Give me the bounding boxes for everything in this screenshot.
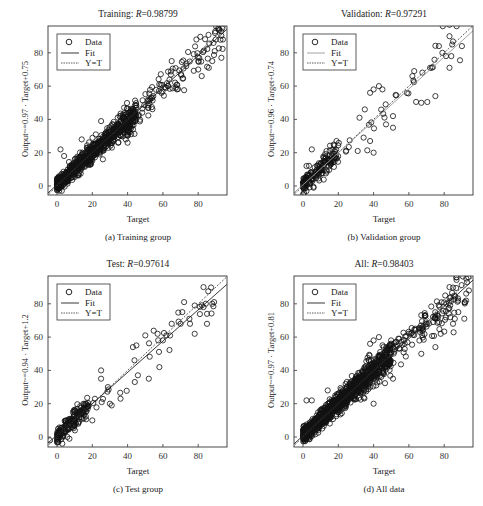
x-tick-label: 0 (55, 451, 60, 461)
legend: DataFitY=T (57, 34, 110, 70)
y-tick-label: 0 (285, 181, 290, 191)
y-tick-label: 20 (34, 399, 44, 409)
x-tick-label: 0 (301, 451, 306, 461)
y-tick-label: 60 (34, 332, 44, 342)
x-tick-label: 0 (55, 199, 60, 209)
x-tick-label: 0 (301, 199, 306, 209)
legend-label: Fit (331, 48, 342, 58)
y-tick-label: 20 (280, 148, 290, 158)
y-tick-label: 20 (280, 399, 290, 409)
x-tick-label: 40 (123, 199, 133, 209)
y-tick-label: 60 (280, 81, 290, 91)
legend: DataFitY=T (303, 34, 356, 70)
y-tick-label: 20 (34, 148, 44, 158)
chart-a: 020406080020406080DataFitY=T (34, 11, 234, 209)
legend-label: Data (331, 37, 348, 47)
x-tick-label: 80 (440, 199, 450, 209)
x-tick-label: 60 (158, 451, 168, 461)
x-tick-label: 20 (88, 451, 98, 461)
legend: DataFitY=T (57, 284, 110, 320)
x-tick-label: 60 (158, 199, 168, 209)
x-tick-label: 40 (123, 451, 133, 461)
chart-b: 020406080020406080DataFitY=T (280, 20, 480, 210)
y-tick-label: 40 (34, 365, 44, 375)
y-tick-label: 40 (34, 114, 44, 124)
legend-label: Fit (331, 298, 342, 308)
x-tick-label: 60 (404, 451, 414, 461)
legend: DataFitY=T (303, 284, 356, 320)
x-tick-label: 20 (334, 451, 344, 461)
legend-label: Data (85, 287, 102, 297)
y-tick-label: 80 (280, 48, 290, 58)
legend-label: Data (331, 287, 348, 297)
x-tick-label: 60 (404, 199, 414, 209)
x-tick-label: 80 (194, 451, 204, 461)
chart-c: 020406080020406080DataFitY=T (34, 271, 234, 462)
y-tick-label: 60 (34, 81, 44, 91)
x-tick-label: 80 (440, 451, 450, 461)
x-tick-label: 40 (369, 199, 379, 209)
chart-d: 020406080020406080DataFitY=T (280, 267, 480, 461)
x-tick-label: 20 (88, 199, 98, 209)
y-tick-label: 0 (285, 432, 290, 442)
y-tick-label: 40 (280, 365, 290, 375)
legend-label: Fit (85, 298, 96, 308)
y-tick-label: 0 (39, 181, 44, 191)
legend-label: Data (85, 37, 102, 47)
x-tick-label: 80 (194, 199, 204, 209)
legend-label: Y=T (331, 308, 349, 318)
y-tick-label: 0 (39, 432, 44, 442)
y-tick-label: 60 (280, 332, 290, 342)
legend-label: Y=T (85, 308, 103, 318)
scatter-plots: 020406080020406080DataFitY=T020406080020… (0, 0, 483, 506)
legend-label: Fit (85, 48, 96, 58)
y-tick-label: 80 (280, 299, 290, 309)
y-tick-label: 80 (34, 299, 44, 309)
legend-label: Y=T (331, 58, 349, 68)
y-tick-label: 80 (34, 48, 44, 58)
y-tick-label: 40 (280, 114, 290, 124)
x-tick-label: 40 (369, 451, 379, 461)
x-tick-label: 20 (334, 199, 344, 209)
legend-label: Y=T (85, 58, 103, 68)
